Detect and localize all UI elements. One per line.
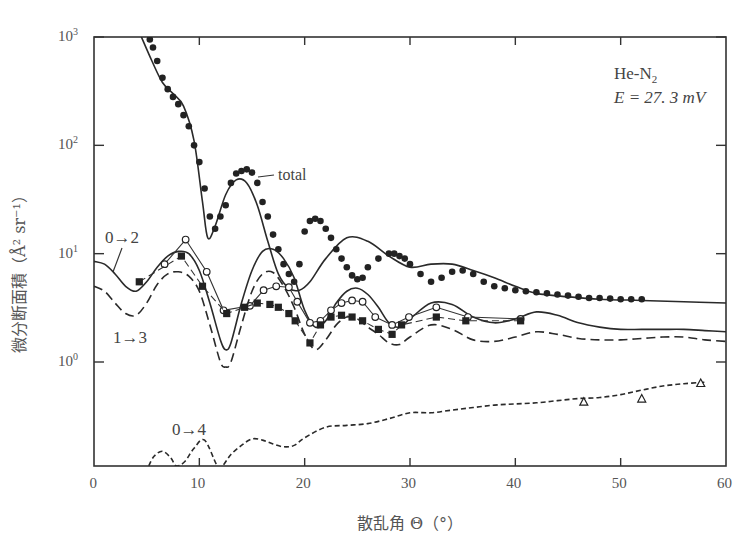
data-point-dot (470, 271, 477, 278)
data-point-dot (249, 169, 256, 176)
data-point-dot (480, 278, 487, 285)
data-point-dot (301, 228, 308, 235)
data-point-dot (207, 213, 214, 220)
data-point-square (223, 310, 230, 317)
data-point-square (292, 317, 299, 324)
data-point-dot (349, 272, 356, 279)
data-point-dot (147, 36, 154, 43)
data-point-dot (638, 296, 645, 303)
data-point-open-circle (406, 314, 413, 321)
transition-13-label: 1→3 (113, 328, 147, 348)
data-point-dot (607, 295, 614, 302)
data-point-open-circle (182, 236, 189, 243)
data-point-dot (628, 296, 635, 303)
data-point-square (327, 313, 334, 320)
data-point-dot (170, 94, 177, 101)
data-point-dot (254, 180, 261, 187)
x-tick-label: 50 (612, 475, 627, 492)
data-point-square (338, 312, 345, 319)
y-tick-label: 103 (58, 26, 78, 45)
data-point-open-circle (161, 261, 168, 268)
data-point-dot (596, 295, 603, 302)
data-point-dot (328, 235, 335, 242)
data-point-dot (586, 295, 593, 302)
x-tick-label: 10 (190, 475, 205, 492)
data-point-dot (259, 199, 266, 206)
data-point-square (388, 331, 395, 338)
transition-04-label: 0→4 (172, 420, 206, 440)
data-point-dot (191, 142, 198, 149)
data-point-open-circle (307, 320, 314, 327)
x-tick-label: 20 (296, 475, 311, 492)
x-tick-label: 30 (401, 475, 416, 492)
series-1-3-exp- (136, 252, 525, 346)
data-point-square (398, 321, 405, 328)
data-point-dot (359, 274, 366, 281)
y-tick-label: 100 (58, 351, 78, 370)
data-point-open-circle (433, 304, 440, 311)
data-point-open-circle (286, 284, 293, 291)
data-point-square (517, 317, 524, 324)
data-point-square (375, 326, 382, 333)
calc-curve-short-dashed (149, 382, 705, 468)
data-point-square (285, 310, 292, 317)
data-point-open-circle (389, 322, 396, 329)
data-point-square (306, 339, 313, 346)
data-point-dot (217, 213, 224, 220)
data-point-dot (175, 101, 182, 108)
y-tick-label: 101 (58, 243, 78, 262)
data-point-dot (502, 285, 509, 292)
data-point-dot (196, 159, 203, 166)
data-point-dot (265, 213, 272, 220)
data-point-dot (512, 287, 519, 294)
data-point-open-circle (372, 314, 379, 321)
data-point-dot (365, 264, 372, 271)
data-point-dot (180, 112, 187, 119)
data-point-dot (544, 290, 551, 297)
data-point-square (275, 304, 282, 311)
total-leader-line (258, 175, 274, 177)
data-point-open-circle (203, 269, 210, 276)
data-point-dot (228, 180, 235, 187)
data-point-dot (154, 58, 161, 65)
data-point-dot (459, 267, 466, 274)
data-point-square (178, 252, 185, 259)
data-point-dot (322, 225, 329, 232)
data-point-dot (186, 123, 193, 130)
series-total-exp- (147, 36, 646, 302)
system-subscript: 2 (652, 73, 658, 85)
data-point-dot (575, 293, 582, 300)
data-point-dot (617, 296, 624, 303)
data-point-dot (333, 246, 340, 253)
data-point-dot (164, 86, 171, 93)
energy-annotation: E = 27. 3 mV (614, 88, 705, 108)
data-point-dot (159, 75, 166, 82)
transition-02-label: 0→2 (105, 228, 139, 248)
data-point-square (241, 304, 248, 311)
data-point-dot (401, 255, 408, 262)
data-point-dot (375, 255, 382, 262)
data-point-square (359, 317, 366, 324)
data-point-dot (296, 261, 303, 268)
data-point-open-circle (294, 298, 301, 305)
data-point-square (317, 321, 324, 328)
series-0-4-calc- (149, 382, 705, 468)
data-point-open-circle (260, 287, 267, 294)
x-axis-label: 散乱角 Θ（°） (357, 510, 463, 534)
data-point-open-circle (328, 307, 335, 314)
system-label: He-N (614, 64, 652, 83)
data-point-dot (201, 185, 208, 192)
data-point-dot (212, 225, 219, 232)
data-point-dot (407, 261, 414, 268)
x-tick-label: 40 (506, 475, 521, 492)
data-point-square (136, 278, 143, 285)
data-point-open-circle (349, 297, 356, 304)
data-point-square (462, 317, 469, 324)
data-point-dot (222, 202, 229, 209)
data-point-square (348, 313, 355, 320)
data-point-square (254, 299, 261, 306)
y-axis-label: 微分断面積（Å² sr⁻¹） (6, 187, 30, 353)
data-point-square (433, 313, 440, 320)
data-point-dot (428, 278, 435, 285)
data-point-dot (417, 271, 424, 278)
